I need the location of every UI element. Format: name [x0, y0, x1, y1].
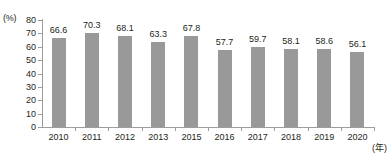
x-axis-tick [241, 128, 242, 131]
x-axis-tick [108, 128, 109, 131]
x-axis-category-label: 2020 [347, 133, 367, 142]
x-axis-tick [208, 128, 209, 131]
bar-value-label: 56.1 [349, 40, 367, 49]
bar [251, 47, 265, 127]
bar-value-label: 70.3 [83, 21, 101, 30]
x-axis-category-label: 2019 [314, 133, 334, 142]
bar [184, 36, 198, 127]
x-axis-tick [142, 128, 143, 131]
bar [350, 52, 364, 127]
bar-value-label: 67.8 [183, 24, 201, 33]
x-axis-category-label: 2017 [248, 133, 268, 142]
x-axis-category-label: 2012 [115, 133, 135, 142]
y-axis-tick-label: 60 [26, 42, 38, 51]
x-axis-tick [341, 128, 342, 131]
y-axis-tick-label: 20 [26, 96, 38, 105]
bar-value-label: 63.3 [149, 30, 167, 39]
x-axis-tick [274, 128, 275, 131]
bar [151, 42, 165, 127]
x-axis-category-label: 2015 [181, 133, 201, 142]
x-axis-tick [175, 128, 176, 131]
bar-value-label: 66.6 [50, 26, 68, 35]
bar-value-label: 59.7 [249, 35, 267, 44]
x-axis-category-label: 2011 [82, 133, 101, 142]
bar-value-label: 58.6 [315, 37, 333, 46]
x-axis-tick [308, 128, 309, 131]
bar-chart: (%) (年) 01020304050607080 20102011201220… [0, 0, 389, 156]
x-axis-category-label: 2010 [49, 133, 69, 142]
x-axis-unit-label: (年) [372, 141, 387, 154]
y-axis-tick-label: 70 [26, 29, 38, 38]
bar [118, 36, 132, 127]
bar [85, 33, 99, 127]
x-axis-category-label: 2016 [215, 133, 235, 142]
y-axis-tick-label: 50 [26, 56, 38, 65]
x-axis-tick [75, 128, 76, 131]
x-axis-tick [374, 128, 375, 131]
bar [317, 49, 331, 127]
y-axis-tick-label: 10 [26, 109, 38, 118]
y-axis-tick-label: 30 [26, 82, 38, 91]
y-axis-tick-label: 0 [31, 123, 38, 132]
bar-value-label: 57.7 [216, 38, 234, 47]
bar-value-label: 68.1 [116, 24, 134, 33]
bar [218, 50, 232, 127]
y-axis-tick [38, 127, 42, 128]
bar [52, 38, 66, 127]
bar-value-label: 58.1 [282, 37, 300, 46]
y-axis-unit-label: (%) [3, 13, 16, 23]
x-axis-category-label: 2013 [148, 133, 168, 142]
x-axis-category-label: 2018 [281, 133, 301, 142]
y-axis-tick-label: 40 [26, 69, 38, 78]
y-axis-tick-label: 80 [26, 16, 38, 25]
bar [284, 49, 298, 127]
